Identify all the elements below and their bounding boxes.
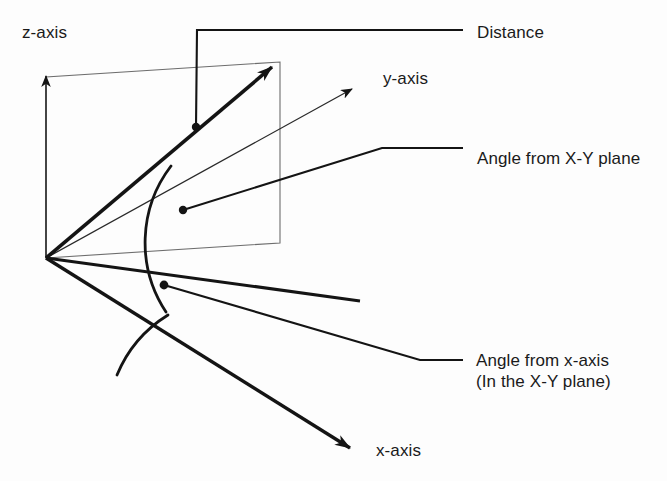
- angle-xy-plane-leader-line: [183, 148, 463, 210]
- angle-x-axis-leader-line: [164, 285, 463, 360]
- x-axis-label: x-axis: [376, 440, 421, 461]
- angle-from-xy-plane-label: Angle from X-Y plane: [477, 148, 640, 169]
- azimuth-marker-dot: [160, 281, 169, 290]
- angle-from-x-axis-label-line1: Angle from x-axis: [476, 350, 611, 371]
- x-axis-line: [46, 258, 350, 448]
- y-axis-line: [46, 89, 352, 258]
- diagram-canvas: z-axis y-axis Distance Angle from X-Y pl…: [0, 0, 667, 481]
- xy-projection-line: [46, 258, 360, 301]
- coordinate-system-drawing: [0, 0, 667, 481]
- elevation-marker-dot: [179, 206, 187, 214]
- azimuth-angle-arc: [117, 315, 168, 375]
- y-axis-label: y-axis: [383, 68, 428, 89]
- z-axis-label: z-axis: [22, 22, 67, 43]
- distance-vector-line: [46, 67, 272, 258]
- distance-label: Distance: [477, 22, 544, 43]
- angle-from-x-axis-label-line2: (In the X-Y plane): [476, 371, 611, 392]
- angle-from-x-axis-label: Angle from x-axis (In the X-Y plane): [476, 350, 611, 393]
- distance-marker-dot: [192, 123, 200, 131]
- elevation-angle-arc: [145, 166, 171, 312]
